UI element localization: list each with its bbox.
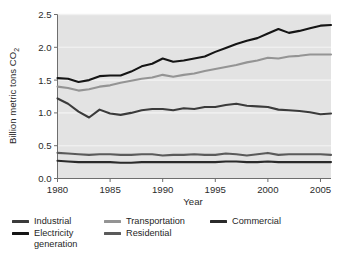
legend-swatch-icon (12, 220, 29, 224)
legend-label: Commercial (232, 216, 281, 227)
x-tick-label: 1980 (47, 184, 68, 195)
x-tick-label: 1990 (152, 184, 173, 195)
legend-item[interactable]: Transportation (104, 216, 210, 227)
legend-item[interactable]: Commercial (210, 216, 330, 227)
legend-swatch-icon (104, 220, 121, 224)
legend-swatch-icon (210, 220, 227, 224)
legend-swatch-icon (12, 232, 29, 236)
x-tick-label: 1995 (205, 184, 226, 195)
y-tick-label: 0.5 (38, 140, 51, 151)
chart-legend: IndustrialTransportationCommercialElectr… (12, 216, 342, 250)
series-line-residential (58, 153, 332, 156)
y-tick-label: 1.5 (38, 75, 51, 86)
x-axis-title: Year (183, 196, 203, 207)
y-tick-label: 2.0 (38, 42, 51, 53)
legend-swatch-icon (104, 232, 121, 236)
legend-label: Residential (126, 228, 171, 239)
series-line-commercial (58, 161, 332, 163)
y-axis-title-main: Billion metric tons CO (7, 52, 18, 144)
legend-label: Electricity generation (34, 228, 104, 250)
x-tick-label: 2000 (257, 184, 278, 195)
y-axis-title: Billion metric tons CO2 (7, 48, 20, 144)
x-tick-label: 1985 (99, 184, 120, 195)
legend-item[interactable]: Electricity generation (12, 228, 104, 250)
x-tick-label: 2005 (310, 184, 331, 195)
y-tick-label: 1.0 (38, 107, 51, 118)
legend-label: Transportation (126, 216, 185, 227)
legend-item[interactable]: Residential (104, 228, 210, 250)
y-tick-label: 0.0 (38, 173, 51, 184)
y-tick-label: 2.5 (38, 9, 51, 20)
legend-label: Industrial (34, 216, 71, 227)
chart-figure: 0.00.51.01.52.02.5 198019851990199520002… (0, 0, 344, 268)
legend-item[interactable]: Industrial (12, 216, 104, 227)
y-axis-title-subscript: 2 (13, 48, 20, 52)
